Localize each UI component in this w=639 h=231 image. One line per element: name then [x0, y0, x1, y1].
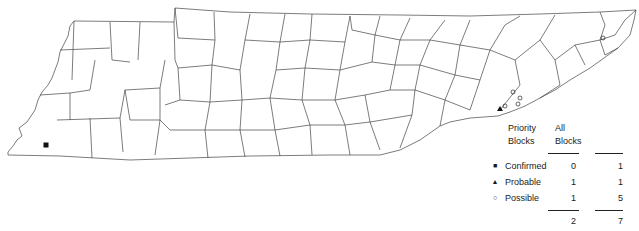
priority-total: 2: [530, 214, 576, 228]
header-line: Blocks: [555, 135, 582, 148]
legend-row-total: 2 7: [490, 214, 639, 228]
legend-row-confirmed: ■ Confirmed 0 1: [490, 159, 639, 173]
square-filled-icon: ■: [490, 159, 500, 173]
all-count: 1: [580, 159, 623, 173]
header-line: Priority: [508, 122, 536, 135]
priority-count: 0: [530, 159, 576, 173]
all-total: 7: [580, 214, 623, 228]
legend-row-probable: ▲ Probable 1 1: [490, 175, 639, 189]
header-line: Blocks: [508, 135, 536, 148]
possible-marker: [516, 102, 520, 106]
header-line: All: [555, 122, 582, 135]
total-rule: [595, 210, 623, 211]
legend-row-possible: ○ Possible 1 5: [490, 191, 639, 205]
possible-marker: [518, 96, 522, 100]
probable-marker: [497, 106, 503, 111]
header-rule: [548, 153, 579, 154]
header-rule: [595, 153, 623, 154]
total-rule: [548, 210, 579, 211]
priority-count: 1: [530, 191, 576, 205]
triangle-filled-icon: ▲: [490, 175, 500, 189]
confirmed-marker: [44, 143, 49, 148]
circle-open-icon: ○: [490, 191, 500, 205]
column-header-priority-blocks: Priority Blocks: [508, 122, 536, 148]
all-count: 1: [580, 175, 623, 189]
all-count: 5: [580, 191, 623, 205]
priority-count: 1: [530, 175, 576, 189]
legend-table: Priority Blocks All Blocks ■ Confirmed 0…: [440, 122, 639, 231]
possible-marker: [601, 36, 605, 40]
column-header-all-blocks: All Blocks: [555, 122, 582, 148]
